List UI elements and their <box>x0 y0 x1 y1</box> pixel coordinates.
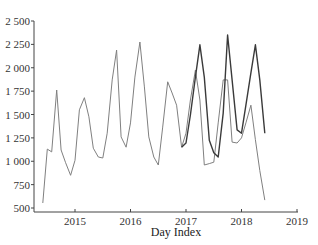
y-tick-label: 2 000 <box>5 62 30 74</box>
series-layer <box>43 35 265 203</box>
x-axis-title: Day Index <box>151 225 201 239</box>
x-tick-label: 2019 <box>286 215 309 227</box>
x-tick-label: 2016 <box>120 215 143 227</box>
series-line-predicted <box>182 35 265 157</box>
y-tick-label: 1 750 <box>5 85 30 97</box>
y-tick-label: 1 250 <box>5 132 30 144</box>
y-tick-label: 750 <box>14 179 31 191</box>
y-axis: 5007501 0001 2501 5001 7502 0002 2502 50… <box>5 15 34 214</box>
y-tick-label: 2 250 <box>5 38 30 50</box>
series-line-actual <box>43 42 265 203</box>
y-tick-label: 1 000 <box>5 155 30 167</box>
x-tick-label: 2018 <box>231 215 254 227</box>
line-chart: 5007501 0001 2501 5001 7502 0002 2502 50… <box>0 0 318 245</box>
y-tick-label: 1 500 <box>5 109 30 121</box>
y-tick-label: 500 <box>14 202 31 214</box>
y-tick-label: 2 500 <box>5 15 30 27</box>
x-tick-label: 2015 <box>64 215 87 227</box>
